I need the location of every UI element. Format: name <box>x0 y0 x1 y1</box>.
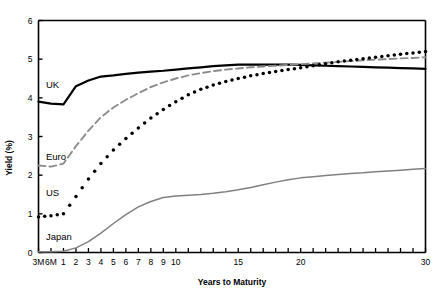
data-dot <box>193 90 197 94</box>
data-dot <box>249 74 253 78</box>
data-dot <box>187 93 191 97</box>
data-dot <box>230 78 234 82</box>
data-dot <box>418 50 422 54</box>
data-dot <box>311 64 315 68</box>
data-dot <box>261 72 265 76</box>
data-dot <box>274 70 278 74</box>
data-dot <box>299 66 303 70</box>
data-dot <box>280 69 284 73</box>
yield-curve-chart: 0123456 3M6M12345678910152030 UKEuroUSJa… <box>0 0 439 293</box>
data-dot <box>305 65 309 69</box>
x-tick-label: 20 <box>296 257 306 267</box>
data-dot <box>405 52 409 56</box>
x-tick-label: 6 <box>124 257 129 267</box>
data-dot <box>199 88 203 92</box>
data-dot <box>180 96 184 100</box>
data-dot <box>236 77 240 81</box>
series-label-uk: UK <box>46 79 60 90</box>
data-dot <box>218 82 222 86</box>
data-dot <box>224 80 228 84</box>
x-axis-title: Years to Maturity <box>198 277 267 287</box>
y-tick-label: 5 <box>28 54 33 64</box>
data-dot <box>324 62 328 65</box>
data-dot <box>380 55 384 59</box>
y-tick-label: 6 <box>28 16 33 26</box>
series-label-us: US <box>46 187 59 198</box>
y-tick-label: 1 <box>28 209 33 219</box>
data-dot <box>355 58 359 62</box>
x-tick-label: 9 <box>161 257 166 267</box>
data-dot <box>205 85 209 89</box>
data-dot <box>174 100 178 104</box>
data-dot <box>393 53 397 57</box>
y-axis-title: Yield (%) <box>4 140 14 176</box>
data-dot <box>112 148 116 152</box>
data-dot <box>293 67 297 71</box>
data-dot <box>49 214 53 218</box>
y-tick-label: 4 <box>28 93 33 103</box>
data-dot <box>55 213 59 217</box>
data-dot <box>143 121 147 125</box>
data-dot <box>386 54 390 58</box>
x-tick-label: 8 <box>148 257 153 267</box>
x-tick-label: 3M <box>33 257 45 267</box>
data-dot <box>286 68 290 72</box>
x-tick-label: 30 <box>421 257 431 267</box>
data-dot <box>37 215 41 219</box>
data-dot <box>62 212 66 216</box>
data-dot <box>168 104 172 108</box>
data-dot <box>74 195 78 199</box>
data-dot <box>105 155 109 159</box>
data-dot <box>155 112 159 116</box>
x-tick-label: 10 <box>171 257 181 267</box>
data-dot <box>124 137 128 141</box>
x-tick-label: 2 <box>74 257 79 267</box>
x-tick-label: 6M <box>45 257 57 267</box>
series-label-japan: Japan <box>46 231 72 242</box>
chart-background <box>0 0 439 293</box>
data-dot <box>99 162 103 166</box>
x-tick-label: 1 <box>61 257 66 267</box>
data-dot <box>361 57 365 61</box>
data-dot <box>118 142 122 146</box>
series-label-euro: Euro <box>46 151 66 162</box>
data-dot <box>80 186 84 190</box>
data-dot <box>374 55 378 59</box>
data-dot <box>43 215 47 219</box>
x-tick-label: 3 <box>86 257 91 267</box>
data-dot <box>130 131 134 135</box>
data-dot <box>424 50 428 54</box>
x-tick-label: 4 <box>99 257 104 267</box>
data-dot <box>149 116 153 120</box>
x-tick-label: 7 <box>136 257 141 267</box>
data-dot <box>349 59 353 63</box>
data-dot <box>87 177 91 181</box>
data-dot <box>399 52 403 56</box>
data-dot <box>368 56 372 60</box>
y-tick-label: 2 <box>28 170 33 180</box>
data-dot <box>255 73 259 77</box>
data-dot <box>318 63 322 67</box>
data-dot <box>93 170 97 174</box>
data-dot <box>162 108 166 112</box>
data-dot <box>243 75 247 79</box>
x-tick-label: 5 <box>111 257 116 267</box>
data-dot <box>411 51 415 55</box>
data-dot <box>137 126 141 129</box>
data-dot <box>330 61 334 64</box>
data-dot <box>343 59 347 63</box>
data-dot <box>268 71 272 75</box>
chart-canvas: 0123456 3M6M12345678910152030 UKEuroUSJa… <box>0 0 439 293</box>
data-dot <box>336 60 340 64</box>
y-tick-label: 3 <box>28 132 33 142</box>
data-dot <box>212 83 216 87</box>
data-dot <box>68 203 72 207</box>
x-tick-label: 15 <box>234 257 244 267</box>
